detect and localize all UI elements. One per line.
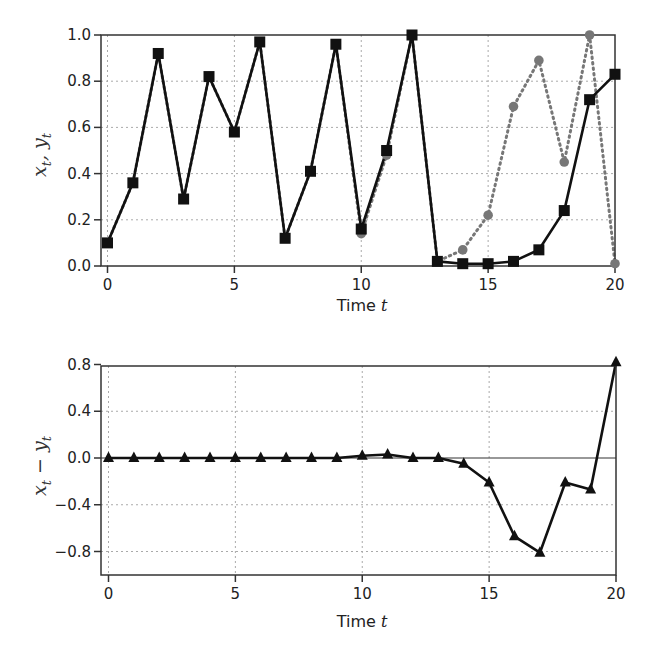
x-tick-label: 5	[231, 585, 241, 603]
triangle-marker	[611, 356, 622, 367]
bottom-axis-ticks: 05101520−0.8−0.40.00.40.8	[55, 356, 626, 604]
x-tick-label: 20	[605, 276, 624, 294]
x-tick-label: 0	[103, 276, 113, 294]
circle-marker	[534, 56, 544, 66]
circle-marker	[458, 245, 468, 255]
y-tick-label: 0.0	[67, 449, 91, 467]
x-tick-label: 15	[479, 276, 498, 294]
square-marker	[102, 237, 113, 248]
square-marker	[483, 258, 494, 269]
x-tick-label: 0	[104, 585, 114, 603]
y-tick-label: 0.8	[67, 72, 91, 90]
square-marker	[508, 256, 519, 267]
x-tick-label: 10	[353, 585, 372, 603]
x-tick-label: 20	[606, 585, 625, 603]
square-marker	[432, 256, 443, 267]
circle-marker	[610, 259, 620, 269]
triangle-marker	[484, 476, 495, 487]
x-tick-label: 10	[352, 276, 371, 294]
y-tick-label: 0.4	[67, 165, 91, 183]
x-tick-label: 5	[230, 276, 240, 294]
square-marker	[229, 127, 240, 138]
circle-marker	[483, 210, 493, 220]
figure: 051015200.00.20.40.60.81.0 xt, yt Time t…	[0, 0, 652, 661]
x-tick-label: 15	[480, 585, 499, 603]
bottom-x-axis-label: Time t	[336, 612, 388, 631]
triangle-marker	[560, 476, 571, 487]
triangle-marker	[382, 448, 393, 459]
square-marker	[178, 194, 189, 205]
y-tick-label: 0.2	[67, 211, 91, 229]
top-x-axis-label: Time t	[336, 296, 388, 315]
y-tick-label: 0.6	[67, 118, 91, 136]
square-marker	[254, 36, 265, 47]
square-marker	[280, 233, 291, 244]
square-marker	[559, 205, 570, 216]
square-marker	[204, 71, 215, 82]
bottom-plot-frame	[101, 366, 616, 575]
square-marker	[356, 224, 367, 235]
square-marker	[153, 48, 164, 59]
square-marker	[305, 166, 316, 177]
square-marker	[127, 177, 138, 188]
circle-marker	[559, 157, 569, 167]
top-chart-panel: 051015200.00.20.40.60.81.0 xt, yt Time t	[28, 26, 625, 315]
triangle-marker	[509, 530, 520, 541]
circle-marker	[585, 30, 595, 40]
square-marker	[584, 94, 595, 105]
bottom-y-axis-label: xt − yt	[28, 435, 54, 496]
top-y-axis-label: xt, yt	[28, 132, 54, 177]
y-tick-label: 0.0	[67, 257, 91, 275]
square-marker	[381, 145, 392, 156]
square-marker	[330, 39, 341, 50]
y-tick-label: 0.8	[67, 356, 91, 374]
y-tick-label: −0.4	[55, 496, 91, 514]
square-marker	[407, 30, 418, 41]
y-tick-label: 0.4	[67, 402, 91, 420]
square-marker	[533, 244, 544, 255]
bottom-chart-panel: 05101520−0.8−0.40.00.40.8 xt − yt Time t	[28, 356, 626, 632]
circle-marker	[509, 102, 519, 112]
y-tick-label: −0.8	[55, 543, 91, 561]
square-marker	[610, 69, 621, 80]
y-tick-label: 1.0	[67, 26, 91, 44]
square-marker	[457, 258, 468, 269]
bottom-gridlines	[101, 366, 616, 575]
